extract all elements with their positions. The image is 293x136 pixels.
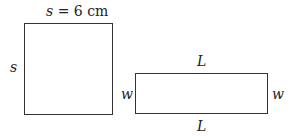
rectangle-left-label: w: [121, 87, 133, 101]
square: [24, 23, 113, 115]
square-left-label: s: [10, 60, 17, 74]
rectangle-right-label: w: [272, 87, 284, 101]
rectangle: [135, 73, 268, 114]
rectangle-top-label: L: [197, 54, 206, 68]
square-side-value: = 6 cm: [53, 3, 108, 19]
rectangle-bottom-label: L: [197, 119, 206, 133]
square-top-label: s = 6 cm: [46, 4, 108, 18]
